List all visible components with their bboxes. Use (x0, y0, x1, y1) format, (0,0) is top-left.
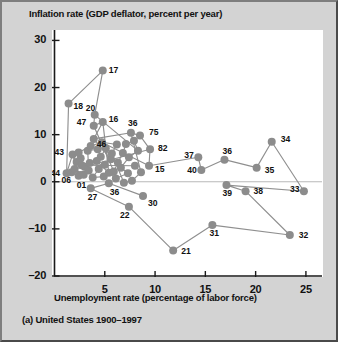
figure-caption: (a) United States 1900–1997 (22, 314, 142, 325)
data-point (220, 156, 228, 164)
data-point (117, 164, 125, 172)
data-point (124, 169, 132, 177)
point-label: 06 (62, 175, 72, 185)
data-points (63, 67, 308, 255)
point-label: 32 (299, 230, 309, 240)
point-label: 30 (148, 198, 158, 208)
point-label: 18 (74, 101, 84, 111)
data-point (87, 184, 95, 192)
point-label: 22 (120, 210, 130, 220)
scatter-plot-svg: 0601444318172047164636758215374036353433… (52, 30, 323, 277)
point-label: 35 (265, 165, 275, 175)
connector-lines (67, 71, 304, 251)
data-point (194, 153, 202, 161)
data-point (120, 179, 128, 187)
point-label: 36 (110, 187, 120, 197)
data-point (128, 177, 136, 185)
data-point (127, 129, 135, 137)
data-point (122, 140, 130, 148)
data-point (89, 174, 97, 182)
data-point (131, 162, 139, 170)
point-label: 34 (281, 134, 291, 144)
data-point (90, 122, 98, 130)
data-point (134, 147, 142, 155)
data-point (93, 157, 101, 165)
point-label: 15 (155, 164, 165, 174)
point-label: 75 (149, 127, 159, 137)
point-label: 17 (109, 65, 119, 75)
point-label: 36 (128, 118, 138, 128)
data-point (125, 153, 133, 161)
point-label: 44 (52, 168, 60, 178)
data-point (197, 166, 205, 174)
point-label: 21 (181, 246, 191, 256)
data-point (75, 149, 83, 157)
data-point (242, 187, 250, 195)
data-point (86, 159, 94, 167)
point-label: 31 (209, 228, 219, 238)
data-point (95, 165, 103, 173)
data-point (78, 161, 86, 169)
data-point (71, 165, 79, 173)
data-point (145, 162, 153, 170)
data-point (169, 247, 177, 255)
y-tick-label: 10 (16, 128, 46, 140)
point-label: 16 (109, 114, 119, 124)
data-point (65, 100, 73, 108)
point-label: 36 (222, 146, 232, 156)
y-axis-title: Inflation rate (GDP deflator, percent pe… (29, 8, 222, 19)
point-label: 82 (158, 143, 168, 153)
y-tick-label: 0 (16, 175, 46, 187)
y-tick-label: 20 (16, 81, 46, 93)
point-label: 33 (290, 184, 300, 194)
point-label: 40 (187, 165, 197, 175)
data-point (113, 141, 121, 149)
data-point (253, 164, 261, 172)
data-point (130, 137, 138, 145)
point-label: 20 (86, 103, 96, 113)
point-label: 27 (88, 192, 98, 202)
data-point (99, 118, 107, 126)
point-label: 47 (77, 117, 87, 127)
y-tick-label: –10 (16, 222, 46, 234)
data-point (136, 132, 144, 140)
data-point (286, 231, 294, 239)
data-point (85, 166, 93, 174)
point-label: 01 (77, 180, 87, 190)
data-point (112, 174, 120, 182)
x-axis-title: Unemployment rate (percentage of labor f… (54, 292, 257, 303)
data-point (137, 168, 145, 176)
data-point (105, 179, 113, 187)
point-label: 43 (55, 147, 65, 157)
point-label: 38 (254, 186, 264, 196)
x-tick-label: 25 (294, 283, 318, 295)
data-point (268, 138, 276, 146)
data-point (139, 192, 147, 200)
y-tick-label: 30 (16, 33, 46, 45)
y-tick-label: –20 (16, 269, 46, 281)
data-point (105, 169, 113, 177)
point-label: 39 (222, 188, 232, 198)
data-point (108, 150, 116, 158)
data-point (99, 67, 107, 75)
data-point (87, 142, 95, 150)
point-label: 37 (184, 150, 194, 160)
point-label: 46 (97, 139, 107, 149)
data-point (146, 145, 154, 153)
data-point (300, 187, 308, 195)
plot-area: 0601444318172047164636758215374036353433… (52, 30, 323, 277)
figure-frame: Inflation rate (GDP deflator, percent pe… (0, 0, 338, 342)
